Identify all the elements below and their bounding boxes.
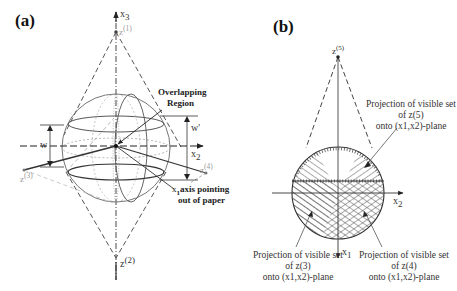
w-label: w <box>40 140 47 150</box>
caption-left: Projection of visible set of z(3) onto (… <box>250 250 346 283</box>
panel-b-label: (b) <box>273 18 294 35</box>
caption-right: Projection of visible set of z(4) onto (… <box>356 250 452 283</box>
x2-axis-label: x2 <box>191 149 201 162</box>
caption-top: Projection of visible set of z(5) onto (… <box>365 99 457 132</box>
panel-a-label: (a) <box>15 12 35 29</box>
panel-b-figure <box>272 55 403 258</box>
cone-upper-left <box>64 32 116 135</box>
panel-a-figure <box>20 12 208 280</box>
w-prime-label: w' <box>191 123 200 133</box>
cone-lower-right <box>116 172 166 258</box>
overlapping-region-label-line2: Region <box>167 99 194 108</box>
cone-lower-left <box>66 172 116 258</box>
overlapping-region-label-line1: Overlapping <box>158 88 207 97</box>
z3-label: z(3) <box>20 172 33 184</box>
b-x2-axis-label: x2 <box>393 196 403 209</box>
z5-label: z(5) <box>332 45 344 56</box>
z2-label: z(2) <box>120 256 135 269</box>
x3-axis-label: x3 <box>120 9 130 22</box>
z4-label: z(4) <box>200 163 213 175</box>
out-of-paper-label: out of paper <box>178 196 225 205</box>
z1-label: z(1) <box>119 25 132 37</box>
